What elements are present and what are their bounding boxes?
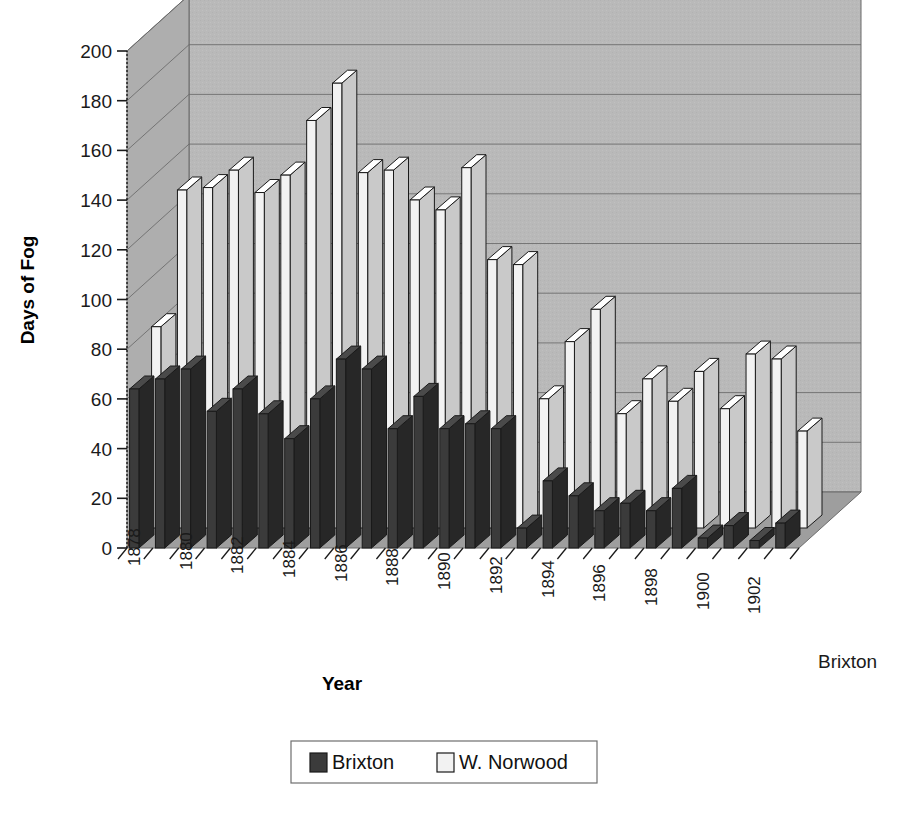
y-tick-label: 60	[91, 389, 112, 410]
bar-side	[397, 416, 412, 548]
x-tick-label-1894: 1894	[539, 560, 558, 598]
y-tick-label: 0	[101, 538, 112, 559]
bar-brixton-1880	[181, 356, 205, 548]
bar-front	[207, 411, 216, 548]
bar-front	[233, 389, 242, 548]
bar-front	[595, 511, 604, 548]
bar-brixton-1891	[466, 411, 490, 548]
bar-front	[181, 369, 190, 548]
bar-side	[242, 376, 257, 548]
bar-side	[781, 346, 796, 528]
y-tick-label: 160	[80, 140, 112, 161]
bar-brixton-1899	[672, 475, 696, 548]
x-tick-label-1900: 1900	[694, 572, 713, 610]
bar-front	[569, 496, 578, 548]
bar-side	[139, 376, 154, 548]
bar-side	[755, 341, 770, 528]
bar-brixton-1889	[414, 383, 438, 548]
bar-side	[268, 401, 283, 548]
bar-side	[191, 356, 206, 548]
bar-front	[517, 528, 526, 548]
y-axis-title: Days of Fog	[17, 236, 38, 345]
bar-front	[259, 414, 268, 548]
x-tick-label-1890: 1890	[435, 552, 454, 590]
bar-front	[466, 424, 475, 548]
bar-front	[155, 379, 164, 548]
bar-side	[449, 416, 464, 548]
bar-front	[543, 481, 552, 548]
x-tick-label-1880: 1880	[177, 532, 196, 570]
x-tick-label-1896: 1896	[590, 564, 609, 602]
bar-side	[372, 356, 387, 548]
bar-w--norwood-1903	[798, 418, 822, 528]
bar-side	[600, 296, 615, 528]
y-tick-label: 140	[80, 190, 112, 211]
y-tick-label: 200	[80, 41, 112, 62]
x-tick-label-1882: 1882	[228, 536, 247, 574]
bar-front	[672, 488, 681, 548]
legend-swatch-brixton	[310, 753, 327, 772]
bar-front	[130, 389, 139, 548]
bar-front	[746, 354, 755, 528]
bar-brixton-1895	[569, 483, 593, 548]
y-tick-label: 100	[80, 290, 112, 311]
bar-w--norwood-1899	[694, 358, 718, 528]
bar-side	[501, 416, 516, 548]
bar-front	[311, 399, 320, 548]
legend-swatch-w-norwood	[437, 753, 454, 772]
bar-front	[440, 429, 449, 548]
bar-front	[750, 541, 759, 548]
bar-w--norwood-1895	[591, 296, 615, 528]
bar-w--norwood-1902	[772, 346, 796, 528]
legend-label-w-norwood: W. Norwood	[459, 751, 568, 773]
x-tick-label-1888: 1888	[383, 548, 402, 586]
y-tick-label: 180	[80, 91, 112, 112]
bar-front	[491, 429, 500, 548]
y-tick-label: 120	[80, 240, 112, 261]
bar-brixton-1879	[155, 366, 179, 548]
bar-brixton-1894	[543, 468, 567, 548]
bar-brixton-1883	[259, 401, 283, 548]
x-tick-label-1892: 1892	[487, 556, 506, 594]
bar-brixton-1890	[440, 416, 464, 548]
bar-w--norwood-1892	[513, 252, 537, 528]
y-tick-label: 40	[91, 439, 112, 460]
bar-side	[704, 358, 719, 528]
bar-front	[362, 369, 371, 548]
bar-side	[730, 396, 745, 528]
x-tick-label-1902: 1902	[745, 576, 764, 614]
bar-side	[346, 346, 361, 548]
x-tick-label-1898: 1898	[642, 568, 661, 606]
depth-axis-label: Brixton	[818, 651, 877, 672]
bar-front	[621, 503, 630, 548]
bar-side	[552, 468, 567, 548]
legend-label-brixton: Brixton	[332, 751, 394, 773]
bar-front	[285, 439, 294, 548]
bar-front	[647, 511, 656, 548]
bar-side	[523, 252, 538, 528]
bar-brixton-1888	[388, 416, 412, 548]
x-tick-label-1878: 1878	[125, 528, 144, 566]
bar-front	[336, 359, 345, 548]
bar-brixton-1881	[207, 398, 231, 548]
bar-side	[294, 426, 309, 548]
bar-brixton-1878	[130, 376, 154, 548]
bar-front	[776, 523, 785, 548]
bar-side	[165, 366, 180, 548]
x-tick-label-1886: 1886	[332, 544, 351, 582]
x-tick-label-1884: 1884	[280, 540, 299, 578]
fog-days-3d-bar-chart: 020406080100120140160180200 187818801882…	[0, 0, 910, 815]
bar-brixton-1892	[491, 416, 515, 548]
bar-side	[216, 398, 231, 548]
chart-container: 020406080100120140160180200 187818801882…	[0, 0, 910, 815]
bar-side	[475, 411, 490, 548]
y-tick-label: 20	[91, 488, 112, 509]
bar-front	[772, 359, 781, 528]
bar-front	[724, 526, 733, 548]
bar-front	[698, 538, 707, 548]
bar-w--norwood-1901	[746, 341, 770, 528]
x-axis-title: Year	[322, 673, 363, 694]
bar-w--norwood-1900	[720, 396, 744, 528]
bar-front	[388, 429, 397, 548]
bar-brixton-1885	[311, 386, 335, 548]
